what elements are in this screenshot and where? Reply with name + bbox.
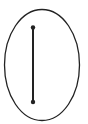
- bottom-endpoint-dot: [31, 100, 35, 104]
- top-endpoint-dot: [31, 25, 35, 29]
- diagram-canvas: [0, 0, 88, 124]
- outer-ellipse: [5, 10, 80, 121]
